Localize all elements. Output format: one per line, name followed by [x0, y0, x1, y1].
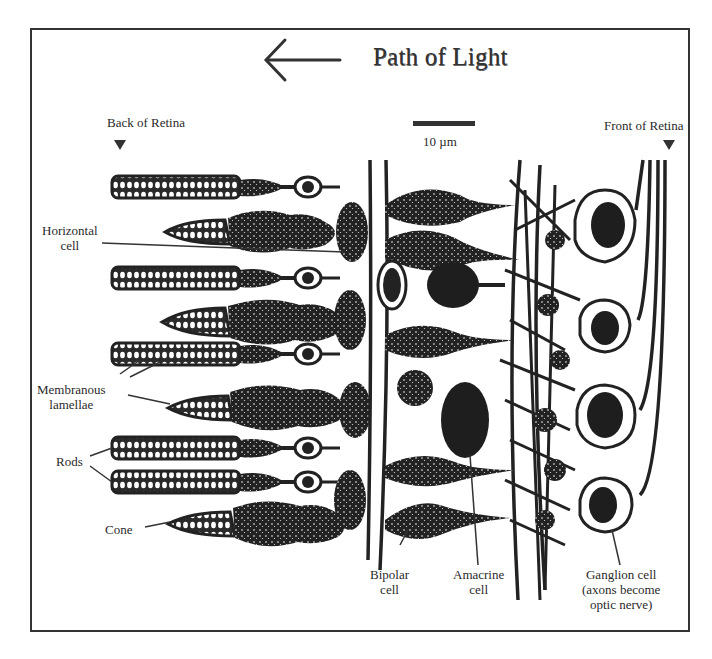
photoreceptor-layer: [112, 176, 345, 546]
figure-title: Path of Light: [373, 43, 508, 71]
cone-label: Cone: [105, 522, 132, 537]
amacrine-cell-label: Amacrine cell: [453, 567, 504, 597]
scale-bar-label: 10 µm: [423, 134, 457, 149]
membranous-lamellae-label: Membranous lamellae: [37, 382, 106, 412]
rod-cell: [112, 471, 340, 493]
label-line: Ganglion cell: [582, 567, 660, 582]
left-arrow-icon: [266, 40, 340, 80]
label-line: optic nerve): [582, 597, 660, 612]
ganglion-cell-label: Ganglion cell (axons become optic nerve): [582, 567, 660, 612]
retina-diagram: [0, 0, 712, 659]
bipolar-cells: [378, 189, 520, 539]
rod-cell: [112, 267, 340, 289]
cone-cell: [162, 300, 343, 345]
bipolar-cell-label: Bipolar cell: [370, 567, 409, 597]
label-line: Horizontal: [42, 223, 98, 238]
rods-label: Rods: [56, 454, 83, 469]
front-of-retina-label: Front of Retina: [604, 118, 683, 133]
front-of-retina-marker-icon: [663, 140, 675, 150]
ganglion-cells: [575, 190, 635, 532]
label-line: cell: [370, 582, 409, 597]
label-line: (axons become: [582, 582, 660, 597]
cone-cell: [168, 501, 345, 546]
scale-bar: [413, 121, 475, 126]
label-line: Membranous: [37, 382, 106, 397]
amacrine-cells: [427, 262, 505, 458]
label-line: cell: [42, 238, 98, 253]
rod-cell: [112, 176, 340, 198]
rod-cell: [112, 437, 340, 459]
axon-fibers: [636, 160, 665, 495]
label-line: lamellae: [37, 397, 106, 412]
rod-cell: [112, 343, 340, 365]
cone-cell: [168, 385, 345, 430]
horizontal-cell-label: Horizontal cell: [42, 223, 98, 253]
back-of-retina-label: Back of Retina: [107, 115, 185, 130]
back-of-retina-marker-icon: [114, 140, 126, 150]
label-line: Amacrine: [453, 567, 504, 582]
label-line: Bipolar: [370, 567, 409, 582]
label-line: cell: [453, 582, 504, 597]
